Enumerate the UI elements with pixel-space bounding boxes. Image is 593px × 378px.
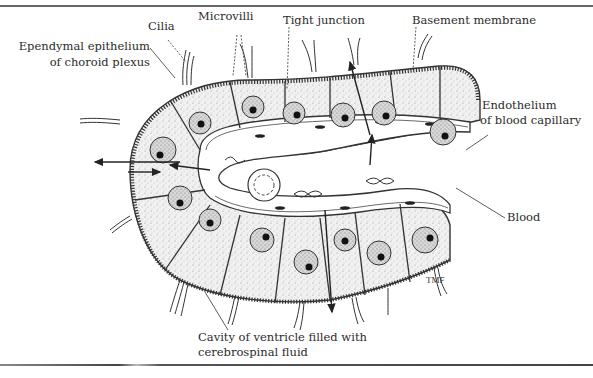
label-blood: Blood xyxy=(507,211,540,224)
label-endothelium-2: of blood capillary xyxy=(480,114,581,127)
label-cilia: Cilia xyxy=(148,20,175,33)
signature: TMF xyxy=(426,275,445,285)
label-endothelium-1: Endothelium xyxy=(482,99,557,112)
label-cavity-2: cerebrospinal fluid xyxy=(198,346,308,359)
label-cavity-1: Cavity of ventricle filled with xyxy=(198,331,367,344)
label-basement-membrane: Basement membrane xyxy=(412,14,536,27)
capillary xyxy=(198,115,470,217)
label-microvilli: Microvilli xyxy=(198,10,254,23)
label-tight-junction: Tight junction xyxy=(283,14,365,27)
label-ependymal-2: of choroid plexus xyxy=(14,56,150,69)
label-ependymal-1: Ependymal epithelium xyxy=(14,40,150,53)
